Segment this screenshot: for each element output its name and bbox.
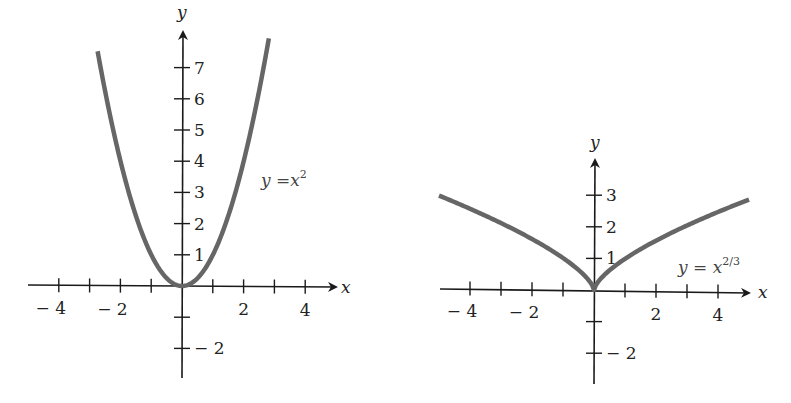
x-tick-label: − 4 — [447, 301, 477, 321]
y-tick-label: 7 — [194, 58, 205, 78]
equation-label: y =x2 — [260, 168, 307, 190]
y-tick-label: 4 — [194, 151, 205, 171]
x-tick-label: 4 — [300, 300, 311, 320]
chart-canvas: − 4− 2247654321− 2 x y y =x2 − 4− 224321… — [0, 0, 791, 403]
y-tick-label: 3 — [194, 182, 205, 202]
parabola-chart: − 4− 2247654321− 2 x y y =x2 — [28, 2, 351, 378]
x-tick-label: − 2 — [97, 299, 127, 319]
y-tick-label: − 2 — [606, 343, 636, 363]
y-tick-label: 5 — [194, 120, 205, 140]
tick-labels: − 4− 2247654321− 2 — [36, 58, 311, 359]
x-axis-label: x — [758, 282, 768, 302]
y-axis-label: y — [176, 2, 187, 22]
x-tick-label: 2 — [238, 299, 249, 319]
y-tick-label: 2 — [194, 214, 205, 234]
y-tick-label: − 2 — [194, 338, 224, 358]
y-tick-label: 3 — [606, 185, 617, 205]
y-tick-label: 1 — [194, 245, 205, 265]
equation-label: y = x2/3 — [677, 255, 740, 277]
y-tick-label: 2 — [606, 217, 617, 237]
y-axis — [594, 160, 595, 384]
x-tick-label: 2 — [651, 304, 662, 324]
y-tick-label: 6 — [194, 89, 205, 109]
cusp-chart: − 4− 224321− 2 x y y = x2/3 — [439, 132, 768, 384]
x-tick-label: − 4 — [36, 298, 66, 318]
x-tick-label: 4 — [713, 305, 724, 325]
y-axis-label: y — [589, 132, 600, 152]
x-tick-label: − 2 — [509, 302, 539, 322]
y-axis — [182, 32, 183, 378]
x-axis-label: x — [341, 277, 351, 297]
